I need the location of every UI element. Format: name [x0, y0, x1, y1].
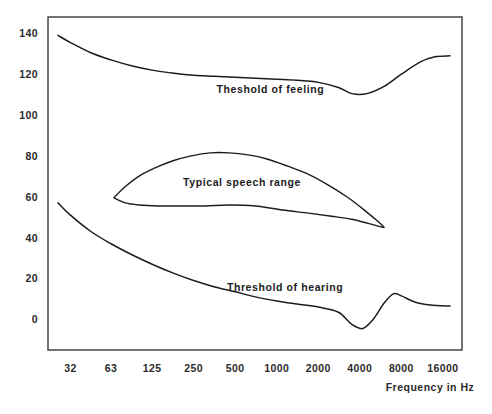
x-tick-label-32: 32 [64, 362, 76, 374]
x-tick-label-16000: 16000 [427, 362, 458, 374]
x-tick-label-1000: 1000 [264, 362, 289, 374]
y-tick-label-0: 0 [32, 313, 38, 325]
curve-annotations: Typical speech rangeTheshold of feelingT… [183, 83, 343, 293]
y-tick-label-140: 140 [19, 27, 38, 39]
y-tick-label-100: 100 [19, 109, 38, 121]
curve-label-1: Threshold of hearing [227, 281, 343, 293]
y-tick-label-40: 40 [26, 232, 38, 244]
speech-range-outline [114, 153, 384, 228]
curve-label-0: Theshold of feeling [217, 83, 325, 95]
curve-threshold-of-hearing [58, 203, 450, 329]
y-axis-tick-labels: 020406080100120140 [19, 27, 38, 325]
x-tick-label-63: 63 [105, 362, 117, 374]
audiogram-chart: 020406080100120140 326312525050010002000… [0, 0, 492, 414]
y-tick-label-20: 20 [26, 272, 38, 284]
x-axis-tick-labels: 3263125250500100020004000800016000 [64, 362, 458, 374]
x-tick-label-250: 250 [184, 362, 203, 374]
y-tick-label-60: 60 [26, 191, 38, 203]
x-tick-label-2000: 2000 [306, 362, 331, 374]
y-tick-label-120: 120 [19, 68, 38, 80]
speech-range-region [114, 153, 384, 228]
y-tick-label-80: 80 [26, 150, 38, 162]
x-tick-label-125: 125 [143, 362, 162, 374]
x-tick-label-4000: 4000 [347, 362, 372, 374]
x-tick-label-8000: 8000 [389, 362, 414, 374]
chart-canvas: 020406080100120140 326312525050010002000… [0, 0, 492, 414]
x-tick-label-500: 500 [226, 362, 245, 374]
region-label-0: Typical speech range [183, 176, 301, 188]
x-axis-title: Frequency in Hz [386, 381, 475, 393]
